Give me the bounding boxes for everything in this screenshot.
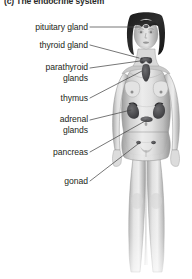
- organ-pituitary-gland: [144, 25, 149, 29]
- label-parathyroid-glands-line1: parathyroid: [46, 62, 88, 73]
- label-thymus: thymus: [61, 93, 88, 103]
- label-pituitary-gland: pituitary gland: [35, 22, 88, 32]
- label-thyroid-gland: thyroid gland: [39, 40, 88, 50]
- label-gonad: gonad: [64, 176, 88, 186]
- endocrine-system-figure: (c) The endocrine system: [0, 0, 192, 279]
- leader-line-gonad: [90, 144, 138, 181]
- label-adrenal-glands-line1: adrenal: [60, 114, 88, 125]
- label-parathyroid-glands: parathyroid glands: [46, 62, 88, 84]
- label-parathyroid-glands-line2: glands: [46, 73, 88, 84]
- label-adrenal-glands-line2: glands: [60, 125, 88, 136]
- figure-artwork: [0, 0, 192, 279]
- body-illustration: [110, 12, 192, 279]
- head: [127, 12, 165, 55]
- label-pancreas: pancreas: [53, 147, 88, 157]
- label-adrenal-glands: adrenal glands: [60, 114, 88, 136]
- bottom-fade: [110, 185, 192, 279]
